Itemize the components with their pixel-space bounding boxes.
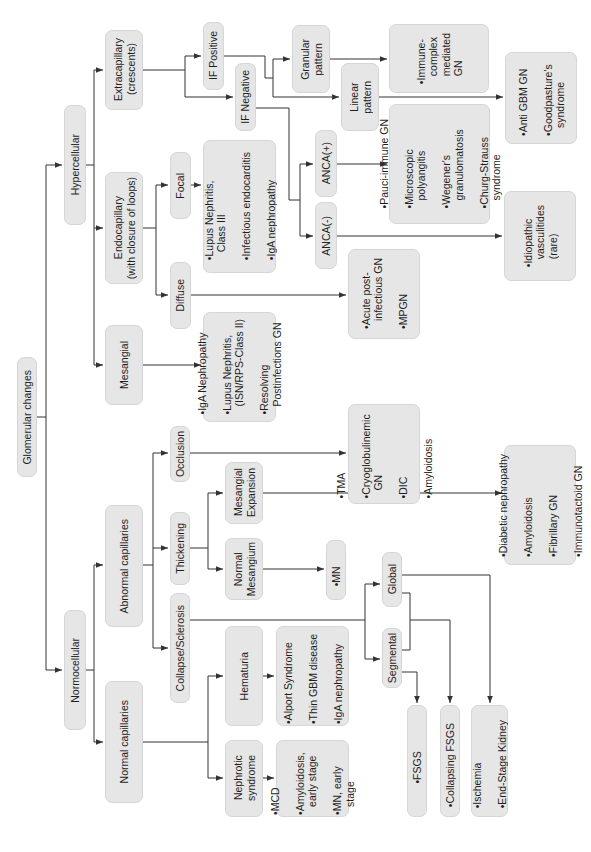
node-label: Nephrotic syndrome xyxy=(232,755,257,801)
outcome-item: Immunotactoid GN xyxy=(571,454,584,557)
outcome-occlusion-list: TMA Cryoglobulinemic GN DIC Amyloidosis xyxy=(348,404,420,504)
outcome-item: Alport Syndrome xyxy=(281,634,294,718)
glomerular-changes-flowchart: Glomerular changes Hypercellular Normoce… xyxy=(0,0,591,852)
outcome-item: End-Stage Kidney xyxy=(496,720,509,802)
node-anca-negative: ANCA(-) xyxy=(315,202,337,269)
outcome-item: Ischemia xyxy=(471,720,484,802)
node-label: ANCA(-) xyxy=(320,216,333,256)
outcome-item: Lupus Nephritis, Class III xyxy=(202,152,227,260)
node-label: Abnormal capillaries xyxy=(118,519,131,614)
outcome-item: MPGN xyxy=(397,258,410,329)
node-occlusion: Occlusion xyxy=(170,426,190,482)
node-anca-positive: ANCA(+) xyxy=(315,130,337,197)
node-label: Focal xyxy=(174,173,187,199)
node-label: Glomerular changes xyxy=(21,370,34,465)
node-label: IF Positive xyxy=(207,31,220,80)
node-label: Normal Mesangium xyxy=(232,542,257,596)
outcome-item: Idiopathic vasculitides (rare) xyxy=(521,205,559,267)
outcome-item: Amyloidosis xyxy=(521,454,534,557)
outcome-item: Fibrillary GN xyxy=(546,454,559,557)
outcome-item: IgA nephropathy xyxy=(331,634,344,718)
node-mesangial-expansion: Mesangial Expansion xyxy=(225,462,263,524)
outcome-item: Infectious endocarditis xyxy=(240,152,253,260)
outcome-diffuse-list: Acute post- infectious GN MPGN xyxy=(348,249,420,339)
node-endocapillary: Endocapillary (with closure of loops) xyxy=(105,172,143,284)
node-label: Diffuse xyxy=(174,279,187,312)
node-label: Global xyxy=(386,564,399,594)
node-label: Collapse/Sclerosis xyxy=(174,605,187,691)
node-label: Extracapillary (crescents) xyxy=(112,38,137,101)
outcome-item: Wegener's granulomatosis xyxy=(440,119,465,208)
node-label: Mesangial xyxy=(118,341,131,389)
outcome-mesangial-expansion-list: Diabetic nephropathy Amyloidosis Fibrill… xyxy=(504,445,576,565)
outcome-item: MN xyxy=(330,562,343,578)
outcome-item: Churg-Strauss syndrome xyxy=(477,119,502,208)
outcome-anti-gbm: Anti GBM GN Goodpasture's syndrome xyxy=(505,52,577,144)
node-hypercellular: Hypercellular xyxy=(64,105,86,225)
outcome-item: Goodpasture's syndrome xyxy=(541,60,566,136)
node-hematuria: Hematuria xyxy=(225,626,263,726)
node-label: Hematuria xyxy=(238,652,251,700)
node-label: IF Negative xyxy=(239,70,252,124)
outcome-item: Microscopic polyangitis xyxy=(402,119,427,208)
node-label: Linear pattern xyxy=(348,81,373,114)
node-normal-capillaries: Normal capillaries xyxy=(105,681,143,803)
outcome-collapsing-fsgs: Collapsing FSGS xyxy=(440,705,460,817)
node-label: Segmental xyxy=(386,633,399,683)
node-label: Normal capillaries xyxy=(118,700,131,783)
outcome-item: Amyloidosis, early stage xyxy=(294,748,319,809)
node-label: Occlusion xyxy=(174,431,187,477)
outcome-item: Cryoglobulinemic GN xyxy=(359,410,384,499)
outcome-item: Immune- complex mediated GN xyxy=(414,33,464,84)
outcome-item: Pauci-immune GN xyxy=(377,119,390,208)
node-mesangial: Mesangial xyxy=(105,325,143,405)
node-normal-mesangium: Normal Mesangium xyxy=(225,538,263,600)
outcome-item: Amyloidosis xyxy=(422,410,435,499)
outcome-item: IgA Nephropathy xyxy=(196,319,209,415)
node-global: Global xyxy=(382,552,402,607)
node-abnormal-capillaries: Abnormal capillaries xyxy=(105,505,143,627)
outcome-mesangial-list: IgA Nephropathy Lupus Nephritis, (ISN/RP… xyxy=(203,312,276,422)
node-collapse-sclerosis: Collapse/Sclerosis xyxy=(170,593,190,703)
outcome-idiopathic-vasculitides: Idiopathic vasculitides (rare) xyxy=(504,191,576,281)
outcome-item: MCD xyxy=(269,748,282,809)
outcome-nephrotic-list: MCD Amyloidosis, early stage MN, early s… xyxy=(276,740,349,817)
outcome-item: Diabetic nephropathy xyxy=(496,454,509,557)
outcome-item: MN, early stage xyxy=(331,748,356,809)
node-glomerular-changes: Glomerular changes xyxy=(17,357,37,477)
node-if-positive: IF Positive xyxy=(203,22,224,90)
outcome-mn: MN xyxy=(326,540,346,600)
outcome-item: FSGS xyxy=(411,747,424,776)
node-segmental: Segmental xyxy=(382,628,402,688)
node-focal: Focal xyxy=(170,152,191,219)
outcome-focal-list: Lupus Nephritis, Class III Infectious en… xyxy=(203,140,276,273)
outcome-hematuria-list: Alport Syndrome Thin GBM disease IgA nep… xyxy=(276,626,349,726)
node-label: Mesangial Expansion xyxy=(232,468,257,517)
node-label: Granular pattern xyxy=(299,39,324,80)
outcome-immune-complex: Immune- complex mediated GN xyxy=(389,24,489,93)
outcome-item: Resolving Postinfections GN xyxy=(258,319,283,415)
node-granular-pattern: Granular pattern xyxy=(292,25,330,93)
node-label: Thickening xyxy=(174,523,187,574)
node-label: Hypercellular xyxy=(69,134,82,195)
outcome-ischemia: Ischemia End-Stage Kidney xyxy=(471,705,508,817)
node-label: Normocellular xyxy=(69,638,82,703)
outcome-fsgs: FSGS xyxy=(407,705,427,817)
outcome-item: Acute post- infectious GN xyxy=(359,258,384,329)
node-normocellular: Normocellular xyxy=(64,610,86,730)
outcome-item: TMA xyxy=(334,410,347,499)
node-label: Endocapillary (with closure of loops) xyxy=(112,177,137,279)
outcome-item: IgA nephropathy xyxy=(265,152,278,260)
outcome-item: Anti GBM GN xyxy=(516,60,529,136)
outcome-item: Collapsing FSGS xyxy=(444,723,457,799)
node-extracapillary: Extracapillary (crescents) xyxy=(105,30,143,110)
outcome-pauci-immune: Pauci-immune GN Microscopic polyangitis … xyxy=(389,104,490,224)
node-if-negative: IF Negative xyxy=(235,63,256,131)
node-label: ANCA(+) xyxy=(320,142,333,184)
outcome-item: Lupus Nephritis, (ISN/RPS-Class II) xyxy=(221,319,246,415)
outcome-item: DIC xyxy=(397,410,410,499)
node-thickening: Thickening xyxy=(170,512,190,585)
outcome-item: Thin GBM disease xyxy=(306,634,319,718)
